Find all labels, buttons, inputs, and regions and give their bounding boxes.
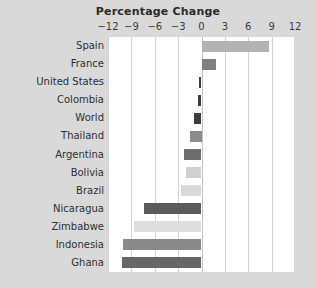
bar (199, 77, 201, 88)
x-tick-label: 3 (222, 21, 228, 32)
category-label: Zimbabwe (0, 221, 104, 233)
bar (184, 149, 202, 160)
zero-line (202, 37, 203, 272)
gridline (294, 37, 295, 272)
x-tick-label: 12 (289, 21, 302, 32)
x-axis-tick-labels: −12−9−6−3036912 (0, 21, 316, 35)
x-tick-label: −12 (97, 21, 118, 32)
chart-container: Percentage Change −12−9−6−3036912 SpainF… (0, 0, 316, 288)
category-axis-labels: SpainFranceUnited StatesColombiaWorldTha… (0, 37, 104, 272)
category-label: Thailand (0, 130, 104, 142)
bar (181, 185, 201, 196)
category-label: Ghana (0, 257, 104, 269)
x-tick-label: 6 (245, 21, 251, 32)
gridline (155, 37, 156, 272)
x-tick-label: −3 (171, 21, 186, 32)
category-label: Bolivia (0, 167, 104, 179)
x-tick-label: −6 (147, 21, 162, 32)
x-tick-label: 0 (198, 21, 204, 32)
gridline (248, 37, 249, 272)
bar (202, 41, 269, 52)
bar (202, 59, 217, 70)
x-tick-label: −9 (124, 21, 139, 32)
gridline (178, 37, 179, 272)
category-label: Colombia (0, 94, 104, 106)
gridline (272, 37, 273, 272)
bar (198, 95, 202, 106)
gridline (225, 37, 226, 272)
category-label: Argentina (0, 149, 104, 161)
chart-title: Percentage Change (0, 5, 316, 18)
bar (134, 221, 201, 232)
category-label: Nicaragua (0, 203, 104, 215)
bar (144, 203, 202, 214)
category-label: Indonesia (0, 239, 104, 251)
bar (194, 113, 202, 124)
x-tick-label: 9 (268, 21, 274, 32)
category-label: Spain (0, 40, 104, 52)
gridline (108, 37, 109, 272)
category-label: United States (0, 76, 104, 88)
plot-area (108, 37, 295, 272)
category-label: France (0, 58, 104, 70)
bar (123, 239, 202, 250)
category-label: Brazil (0, 185, 104, 197)
bar (190, 131, 202, 142)
figure-footer (0, 272, 316, 288)
gridline (131, 37, 132, 272)
bar (186, 167, 202, 178)
bar (122, 257, 201, 268)
category-label: World (0, 112, 104, 124)
